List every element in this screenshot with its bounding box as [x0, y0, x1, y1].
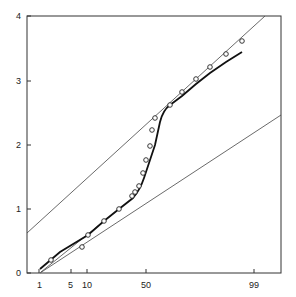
y-tick-label: 4	[16, 11, 21, 21]
plot-frame	[27, 16, 281, 273]
x-tick-label: 5	[68, 280, 73, 290]
y-axis: 0 1 2 3 4	[16, 11, 31, 278]
x-tick-label: 10	[82, 280, 92, 290]
y-tick-label: 0	[16, 268, 21, 278]
x-axis: 1 5 10 50 99	[37, 269, 259, 290]
y-tick-label: 2	[16, 140, 21, 150]
x-tick-label: 99	[249, 280, 259, 290]
lower-reference-line	[40, 115, 281, 273]
x-tick-label: 50	[141, 280, 151, 290]
x-tick-label: 1	[37, 280, 42, 290]
upper-reference-line	[27, 16, 265, 233]
data-points	[49, 39, 245, 263]
y-tick-label: 1	[16, 204, 21, 214]
probability-plot: 0 1 2 3 4 1 5 10 50 99	[0, 0, 296, 297]
y-tick-label: 3	[16, 76, 21, 86]
